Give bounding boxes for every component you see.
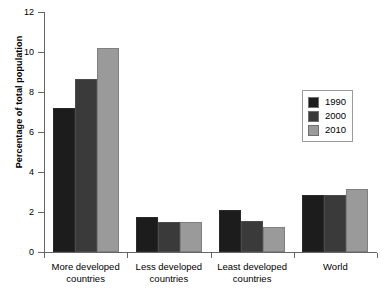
legend-item: 2010 xyxy=(308,123,346,137)
bar xyxy=(324,195,346,252)
bar xyxy=(180,222,202,252)
x-axis-tick xyxy=(211,253,212,258)
legend-item-label: 2010 xyxy=(325,125,346,135)
legend-item-label: 2000 xyxy=(325,111,346,121)
y-axis-tick-label: 6 xyxy=(0,128,34,137)
bar xyxy=(158,222,180,252)
x-axis-category-label-line: More developed xyxy=(38,261,133,273)
y-axis-tick xyxy=(38,52,44,53)
x-axis-tick xyxy=(294,253,295,258)
y-axis-tick-label: 0 xyxy=(0,248,34,257)
y-axis-tick-label: 4 xyxy=(0,168,34,177)
x-axis-category-label-line: Less developed xyxy=(121,261,216,273)
bar xyxy=(241,221,263,252)
x-axis-tick xyxy=(127,253,128,258)
y-axis-tick-label: 12 xyxy=(0,8,34,17)
bar xyxy=(97,48,119,252)
x-axis-category-label-line: countries xyxy=(121,273,216,285)
legend-item: 2000 xyxy=(308,109,346,123)
legend-swatch-icon xyxy=(308,125,319,136)
legend-item: 1990 xyxy=(308,95,346,109)
bar xyxy=(136,217,158,252)
y-axis-tick-label: 8 xyxy=(0,88,34,97)
x-axis-tick xyxy=(44,253,45,258)
x-axis-tick xyxy=(377,253,378,258)
legend-swatch-icon xyxy=(308,111,319,122)
x-axis-category-label-line: countries xyxy=(38,273,133,285)
bar xyxy=(346,189,368,252)
y-axis-tick-label: 10 xyxy=(0,48,34,57)
x-axis-category-label: World xyxy=(288,261,383,273)
x-axis-category-label: Least developedcountries xyxy=(205,261,300,284)
y-axis-tick xyxy=(38,212,44,213)
x-axis-category-label: More developedcountries xyxy=(38,261,133,284)
bar xyxy=(75,79,97,252)
bar-chart: Percentage of total population 024681012… xyxy=(0,0,384,297)
bar xyxy=(263,227,285,252)
bar xyxy=(219,210,241,252)
y-axis-tick-label: 2 xyxy=(0,208,34,217)
bar xyxy=(302,195,324,252)
x-axis-category-label-line: Least developed xyxy=(205,261,300,273)
x-axis-category-label-line: World xyxy=(288,261,383,273)
legend-swatch-icon xyxy=(308,97,319,108)
y-axis-tick xyxy=(38,172,44,173)
chart-legend: 1990 2000 2010 xyxy=(302,90,353,142)
y-axis-tick xyxy=(38,132,44,133)
legend-item-label: 1990 xyxy=(325,97,346,107)
x-axis-category-label: Less developedcountries xyxy=(121,261,216,284)
y-axis-tick xyxy=(38,92,44,93)
x-axis-category-label-line: countries xyxy=(205,273,300,285)
y-axis-line xyxy=(44,12,45,253)
y-axis-tick xyxy=(38,12,44,13)
bar xyxy=(53,108,75,252)
